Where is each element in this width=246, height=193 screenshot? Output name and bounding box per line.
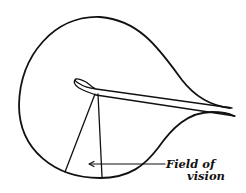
field-of-vision-label-line2: vision (187, 169, 225, 183)
field-of-vision-left-line (65, 94, 95, 172)
eye-outline (19, 17, 234, 178)
eye-diagram: Field of vision (0, 0, 246, 193)
